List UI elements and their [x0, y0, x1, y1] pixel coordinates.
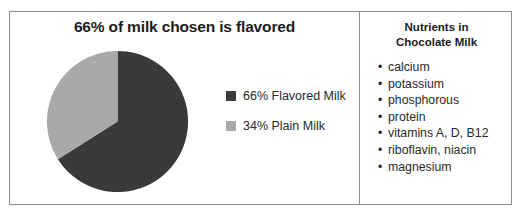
- list-item-label: protein: [388, 110, 426, 124]
- bullet-icon: •: [378, 76, 382, 93]
- legend-item-plain: 34% Plain Milk: [226, 118, 354, 134]
- list-item: • protein: [378, 109, 505, 126]
- bullet-icon: •: [378, 59, 382, 76]
- list-item-label: phosphorous: [388, 93, 459, 107]
- list-item: • phosphorous: [378, 92, 505, 109]
- legend-label-flavored: 66% Flavored Milk: [243, 88, 346, 104]
- list-item-label: vitamins A, D, B12: [388, 126, 488, 140]
- chart-title: 66% of milk chosen is flavored: [10, 18, 359, 36]
- list-item-label: calcium: [388, 60, 430, 74]
- nutrients-heading-line-1: Nutrients in: [374, 20, 499, 35]
- nutrients-heading: Nutrients in Chocolate Milk: [374, 20, 505, 50]
- list-item: • potassium: [378, 76, 505, 93]
- chart-panel: 66% of milk chosen is flavored 66% Flavo…: [10, 12, 360, 204]
- pie-chart: [44, 48, 191, 195]
- infographic-panel: 66% of milk chosen is flavored 66% Flavo…: [9, 11, 512, 205]
- list-item-label: potassium: [388, 77, 444, 91]
- bullet-icon: •: [378, 159, 382, 176]
- bullet-icon: •: [378, 142, 382, 159]
- bullet-icon: •: [378, 109, 382, 126]
- list-item: • vitamins A, D, B12: [378, 125, 505, 142]
- legend-label-plain: 34% Plain Milk: [243, 118, 325, 134]
- nutrients-list: • calcium • potassium • phosphorous • pr…: [374, 59, 505, 175]
- list-item: • calcium: [378, 59, 505, 76]
- list-item: • magnesium: [378, 159, 505, 176]
- pie-chart-svg: [44, 48, 191, 195]
- bullet-icon: •: [378, 125, 382, 142]
- list-item: • riboflavin, niacin: [378, 142, 505, 159]
- chart-legend: 66% Flavored Milk 34% Plain Milk: [226, 88, 354, 148]
- list-item-label: riboflavin, niacin: [388, 143, 476, 157]
- bullet-icon: •: [378, 92, 382, 109]
- legend-swatch-plain-icon: [226, 121, 236, 131]
- nutrients-panel: Nutrients in Chocolate Milk • calcium • …: [360, 12, 511, 204]
- nutrients-heading-line-2: Chocolate Milk: [374, 35, 499, 50]
- list-item-label: magnesium: [388, 160, 452, 174]
- legend-swatch-flavored-icon: [226, 91, 236, 101]
- legend-item-flavored: 66% Flavored Milk: [226, 88, 354, 104]
